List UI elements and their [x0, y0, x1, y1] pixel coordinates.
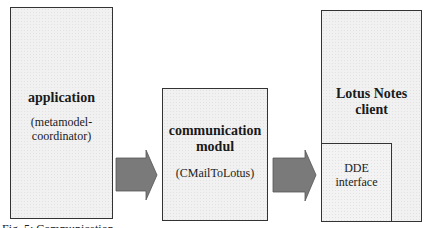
figure-caption: Fig. 5: Communication ...	[2, 222, 126, 228]
application-subtitle-line1: (metamodel-	[11, 115, 112, 129]
communication-module-box: communication modul (CMailToLotus)	[162, 88, 268, 221]
lotus-title-line1: Lotus Notes	[322, 86, 421, 102]
application-title: application	[11, 90, 112, 106]
lotus-title-line2: client	[322, 102, 421, 118]
communication-title-line2: modul	[163, 139, 267, 155]
dde-line2: interface	[322, 175, 391, 189]
arrow-right-icon	[272, 149, 318, 202]
dde-line1: DDE	[322, 161, 391, 175]
dde-interface-box: DDE interface	[321, 143, 392, 222]
arrow-right-icon	[115, 149, 159, 201]
application-subtitle-line2: coordinator)	[11, 129, 112, 143]
communication-subtitle: (CMailToLotus)	[163, 166, 267, 180]
application-box: application (metamodel- coordinator)	[10, 7, 113, 219]
communication-title-line1: communication	[163, 123, 267, 139]
